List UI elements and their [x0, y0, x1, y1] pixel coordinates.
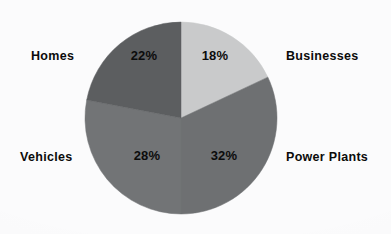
slice-label-vehicles: Vehicles [20, 150, 72, 164]
slice-value-vehicles: 28% [127, 148, 167, 163]
pie-chart-plot-area [84, 21, 278, 215]
pie-chart-figure: Homes Businesses Vehicles Power Plants 2… [0, 0, 391, 234]
slice-label-businesses: Businesses [286, 49, 358, 63]
pie-slice-group [85, 22, 277, 214]
slice-label-power-plants: Power Plants [286, 150, 368, 164]
slice-value-power-plants: 32% [204, 148, 244, 163]
slice-value-homes: 22% [124, 48, 164, 63]
slice-value-businesses: 18% [195, 48, 235, 63]
slice-label-homes: Homes [31, 49, 74, 63]
pie-svg [84, 21, 278, 215]
